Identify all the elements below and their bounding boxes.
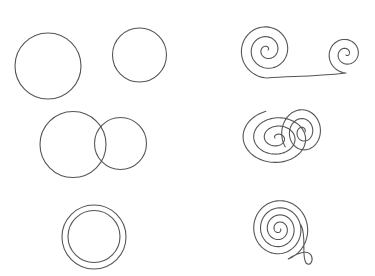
large-circle [15, 33, 81, 99]
venn-left-circle [40, 112, 106, 178]
circles-group [15, 28, 167, 269]
ring-outer-circle [62, 205, 126, 269]
venn-right-circle [95, 118, 147, 170]
double-spiral [241, 27, 358, 78]
drawing-canvas [0, 0, 375, 276]
spirals-group [241, 27, 358, 264]
overlapping-spiral-right [282, 110, 321, 150]
shapes-drawing [0, 0, 375, 276]
looped-spiral [254, 201, 312, 265]
ring-inner-circle [68, 211, 120, 263]
overlapping-spiral-left [243, 111, 306, 162]
small-circle [113, 28, 167, 82]
